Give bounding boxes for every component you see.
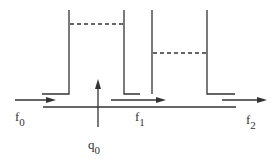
label-q0-sub: 0 [95,144,101,156]
label-f2: f2 [246,113,256,126]
label-f2-sub: 2 [250,119,256,131]
tank-2-wall-right [207,10,235,94]
label-f1: f1 [135,110,145,123]
label-q0-base: q [88,137,95,152]
tank-diagram [0,0,277,166]
label-f1-sub: 1 [139,116,145,128]
label-f0: f0 [15,110,25,123]
arrowhead-f0 [46,97,56,103]
label-f0-sub: 0 [19,116,25,128]
arrowhead-q0 [95,79,101,89]
tank-1-wall [42,10,69,94]
label-q0: q0 [88,138,100,151]
arrowhead-f1 [156,97,166,103]
tank-1-wall-right [124,10,140,94]
arrowhead-f2 [257,97,267,103]
